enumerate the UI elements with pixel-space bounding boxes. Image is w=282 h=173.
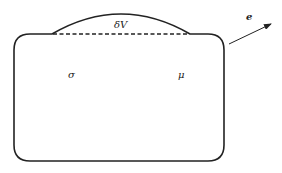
left-region-label: σ	[68, 69, 76, 80]
diagram-canvas: δV σ μ e	[0, 0, 282, 173]
vector-label: e	[246, 11, 252, 22]
normal-vector-arrow	[229, 24, 271, 44]
bump-label: δV	[114, 19, 129, 30]
right-region-label: μ	[178, 69, 185, 80]
body-outline	[14, 14, 224, 161]
